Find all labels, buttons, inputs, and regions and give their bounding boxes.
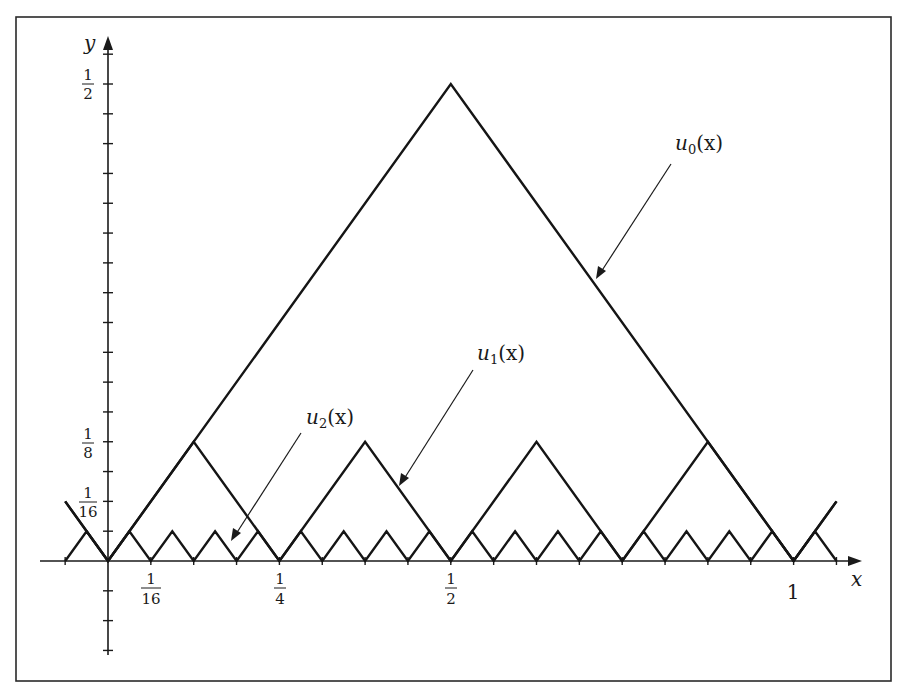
svg-text:1: 1 [83, 425, 93, 443]
xtick-label-1: 1 [787, 580, 800, 604]
u2-pointer-arrow-icon [231, 528, 241, 541]
u1-pointer-arrow-icon [399, 473, 409, 486]
svg-text:1: 1 [446, 570, 456, 588]
xtick-label-1-2: 1 2 [445, 570, 457, 608]
svg-text:16: 16 [141, 590, 160, 608]
xtick-label-1-16: 1 16 [141, 570, 161, 608]
svg-text:2: 2 [83, 85, 93, 103]
y-axis-arrow-icon [103, 36, 113, 50]
ytick-label-1-2: 1 2 [82, 66, 94, 103]
svg-text:1: 1 [83, 484, 93, 502]
svg-text:1: 1 [146, 570, 156, 588]
svg-text:4: 4 [275, 590, 285, 608]
ytick-label-1-8: 1 8 [82, 425, 94, 462]
svg-text:u1(x): u1(x) [477, 341, 525, 367]
curves [65, 84, 836, 561]
svg-text:u2(x): u2(x) [306, 405, 354, 431]
u0-pointer-arrow-icon [596, 266, 606, 279]
x-axis-label: x [851, 567, 862, 591]
curve-u0 [65, 84, 836, 561]
xtick-label-1-4: 1 4 [274, 570, 286, 608]
svg-text:1: 1 [83, 66, 93, 84]
svg-text:8: 8 [83, 444, 93, 462]
u1-annotation: u1(x) [399, 341, 525, 486]
ytick-label-1-16: 1 16 [78, 484, 97, 521]
y-axis-label: y [83, 31, 96, 55]
svg-text:2: 2 [446, 590, 456, 608]
u0-annotation: u0(x) [596, 131, 723, 279]
svg-text:u0(x): u0(x) [675, 131, 723, 157]
curve-u2 [65, 531, 836, 561]
svg-text:1: 1 [275, 570, 285, 588]
figure: x y 1 16 1 4 1 2 1 1 2 1 8 1 16 u0(x) [0, 0, 899, 693]
x-axis-arrow-icon [848, 556, 862, 566]
svg-text:16: 16 [78, 503, 97, 521]
